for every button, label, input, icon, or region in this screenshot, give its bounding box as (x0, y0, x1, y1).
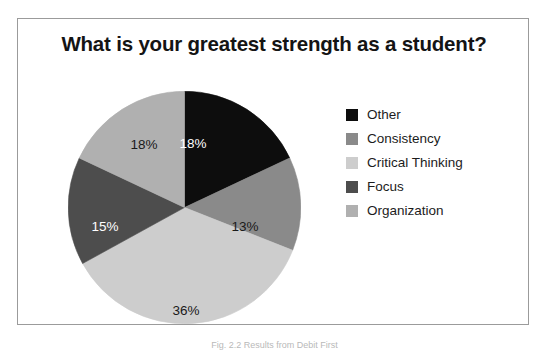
legend-swatch-icon (346, 109, 358, 121)
legend-label: Focus (367, 180, 404, 194)
legend-label: Consistency (367, 132, 441, 146)
legend-swatch-icon (346, 205, 358, 217)
pie-slice-label: 15% (91, 219, 118, 234)
chart-panel: What is your greatest strength as a stud… (17, 18, 529, 325)
legend-item[interactable]: Critical Thinking (346, 151, 516, 175)
pie-slice-label: 18% (130, 137, 157, 152)
legend-swatch-icon (346, 181, 358, 193)
legend-swatch-icon (346, 157, 358, 169)
legend-swatch-icon (346, 133, 358, 145)
figure-caption: Fig. 2.2 Results from Debit First (0, 340, 549, 356)
legend-label: Critical Thinking (367, 156, 463, 170)
pie-slice-label: 13% (231, 219, 258, 234)
legend-item[interactable]: Focus (346, 175, 516, 199)
figure-container: What is your greatest strength as a stud… (0, 0, 549, 360)
legend-label: Other (367, 108, 401, 122)
chart-legend: OtherConsistencyCritical ThinkingFocusOr… (346, 103, 516, 223)
pie-chart: 18%13%36%15%18% (68, 91, 301, 324)
pie-svg (68, 91, 301, 324)
legend-item[interactable]: Consistency (346, 127, 516, 151)
chart-title: What is your greatest strength as a stud… (18, 32, 530, 56)
pie-slice-group (68, 91, 301, 324)
pie-slice-label: 36% (172, 303, 199, 318)
pie-slice-label: 18% (179, 136, 206, 151)
legend-label: Organization (367, 204, 444, 218)
legend-item[interactable]: Other (346, 103, 516, 127)
legend-item[interactable]: Organization (346, 199, 516, 223)
